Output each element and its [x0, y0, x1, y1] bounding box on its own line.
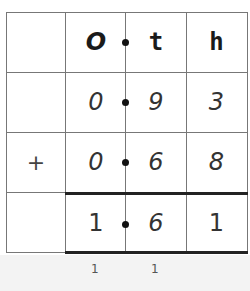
header-ones: O: [66, 12, 126, 72]
result-ones: 1: [66, 195, 126, 251]
row2-tenths: 6: [126, 132, 186, 192]
decimal-point-icon: [122, 99, 129, 106]
result-hundredths: 1: [186, 195, 247, 251]
bottom-margin: [0, 255, 250, 291]
carry-ones: 1: [91, 262, 99, 276]
decimal-point-icon: [122, 39, 129, 46]
decimal-point-icon: [122, 159, 129, 166]
result-operator: [6, 192, 66, 252]
row2-hundredths: 8: [186, 132, 247, 192]
grid-line: [6, 252, 66, 253]
carry-tenths: 1: [151, 262, 159, 276]
row1-ones: 0: [66, 72, 126, 132]
sum-rule-bottom: [65, 251, 248, 254]
row2-operator: +: [6, 132, 66, 192]
result-tenths: 6: [126, 195, 186, 251]
header-empty: [6, 12, 66, 72]
decimal-point-icon: [122, 221, 129, 228]
row1-hundredths: 3: [186, 72, 247, 132]
row1-tenths: 9: [126, 72, 186, 132]
header-tenths: t: [126, 12, 186, 72]
row1-operator: [6, 72, 66, 132]
header-hundredths: h: [186, 12, 247, 72]
row2-ones: 0: [66, 132, 126, 192]
